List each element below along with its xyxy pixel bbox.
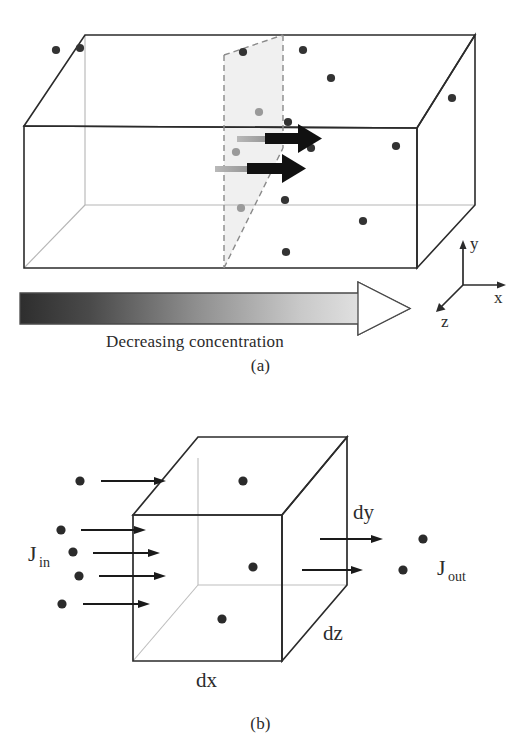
inflow-particles: [56, 476, 84, 608]
svg-text:J: J: [28, 541, 37, 566]
axis-label-y: y: [470, 234, 479, 253]
svg-text:in: in: [39, 555, 50, 570]
outflow-arrowheads: [351, 535, 383, 574]
flux-in-label: J in: [28, 541, 50, 570]
flux-out-label: J out: [437, 555, 466, 584]
outflow-particles: [398, 534, 427, 574]
panel-a-caption: (a): [0, 356, 521, 376]
svg-text:out: out: [448, 569, 466, 584]
inflow-arrowheads: [134, 477, 166, 608]
edge-label-dx: dx: [196, 668, 218, 692]
axis-label-z: z: [441, 312, 449, 331]
cube-interior-particles: [217, 476, 257, 623]
diffusion-figure: y x z Decreasing concentration (a): [0, 0, 521, 754]
box-right-face: [417, 35, 475, 268]
box-front-face: [24, 126, 417, 268]
panel-b-caption: (b): [0, 714, 521, 734]
svg-text:J: J: [437, 555, 446, 580]
cube-hidden-edges: [133, 458, 347, 661]
panel-b-diagram: J in J out dy dz dx: [0, 395, 521, 735]
edge-label-dz: dz: [323, 621, 343, 645]
edge-label-dy: dy: [353, 500, 375, 524]
panel-a-diagram: y x z: [0, 0, 521, 360]
gradient-label: Decreasing concentration: [0, 332, 390, 352]
axis-label-x: x: [494, 288, 503, 307]
particle-cloud-dense: [52, 44, 84, 54]
outflow-arrows: [302, 539, 375, 570]
concentration-gradient-arrow: [20, 282, 410, 335]
cube-front-face: [133, 515, 282, 661]
